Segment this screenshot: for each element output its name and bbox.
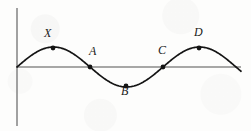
sine-wave-figure: X A B C D [0, 0, 251, 131]
label-point-x: X [44, 27, 51, 39]
point-c [161, 65, 166, 70]
point-x [51, 46, 56, 51]
label-point-b: B [121, 85, 128, 97]
label-point-d: D [194, 26, 203, 38]
point-d [197, 46, 202, 51]
point-a [88, 65, 93, 70]
label-point-a: A [89, 45, 96, 57]
label-point-c: C [158, 44, 166, 56]
plot-svg [0, 0, 251, 131]
